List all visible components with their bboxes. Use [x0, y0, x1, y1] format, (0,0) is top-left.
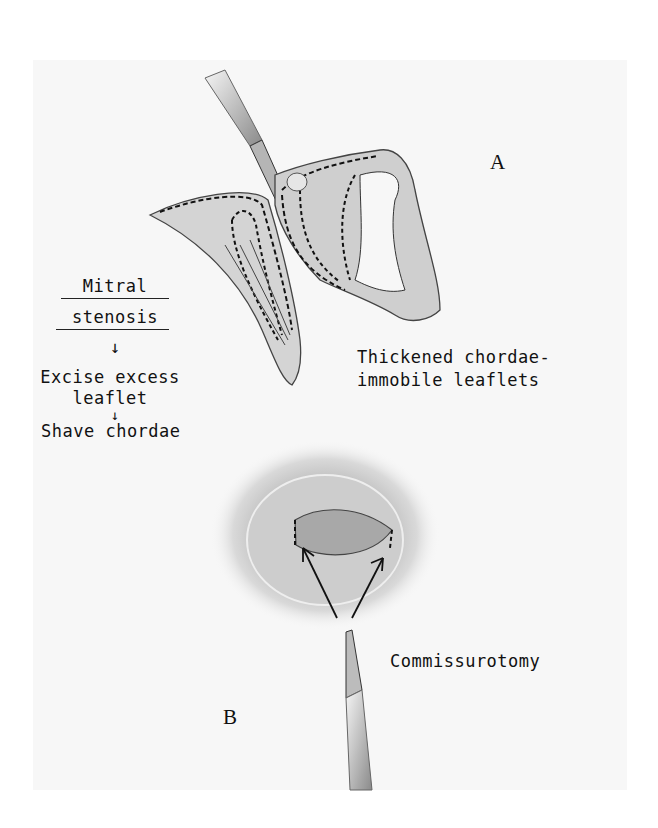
- flow-title-rule2: [56, 329, 169, 330]
- panel-b-label: B: [223, 705, 237, 730]
- valve-orifice-icon: [210, 440, 440, 630]
- scalpel-b-icon: [346, 630, 372, 790]
- flow-title-rule1: [61, 298, 169, 299]
- flow-step1-line1: Excise excess: [35, 367, 185, 387]
- flow-title-line1: Mitral: [55, 276, 175, 296]
- flow-arrow-1: ↓: [55, 337, 175, 357]
- panel-a-caption-line2: immobile leaflets: [357, 370, 540, 390]
- flow-step2: Shave chordae: [41, 421, 181, 441]
- panel-b-caption: Commissurotomy: [390, 651, 540, 671]
- panel-a-caption-line1: Thickened chordae-: [357, 347, 550, 367]
- right-leaflet-icon: [275, 150, 440, 321]
- panel-a-label: A: [490, 150, 505, 175]
- flow-title-line2: stenosis: [55, 307, 175, 327]
